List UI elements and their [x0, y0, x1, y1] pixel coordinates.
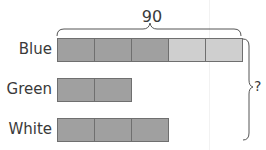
white-box-1	[57, 118, 95, 142]
white-box-3	[131, 118, 169, 142]
blue-box-5	[205, 38, 243, 62]
row-label-white: White	[0, 120, 52, 138]
blue-box-2	[94, 38, 132, 62]
top-total-label: 90	[137, 7, 167, 26]
blue-bar	[57, 38, 242, 61]
green-bar	[57, 78, 131, 101]
blue-box-3	[131, 38, 169, 62]
row-label-blue: Blue	[0, 40, 52, 58]
right-brace	[243, 39, 253, 140]
row-label-green: Green	[0, 80, 52, 98]
green-box-2	[94, 78, 132, 102]
white-box-2	[94, 118, 132, 142]
blue-box-4	[168, 38, 206, 62]
right-total-label: ?	[254, 78, 261, 94]
white-bar	[57, 118, 168, 141]
green-box-1	[57, 78, 95, 102]
blue-box-1	[57, 38, 95, 62]
